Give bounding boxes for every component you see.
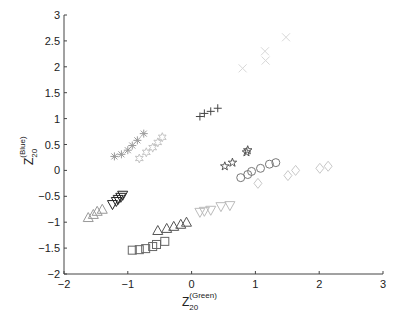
y-tick-label: 2.5 (45, 35, 60, 47)
triangle-up-marker-icon (83, 213, 93, 222)
axes: −2−10123−2−1.5−1−0.500.511.522.53 (38, 9, 386, 290)
scatter-chart: −2−10123−2−1.5−1−0.500.511.522.53 Z20(Gr… (0, 0, 400, 329)
triangle-down-marker-icon (225, 202, 235, 211)
y-axis-label: Z20(Blue) (18, 136, 39, 165)
plus-marker-icon (214, 104, 222, 112)
y-tick-label: −2 (47, 268, 60, 280)
x-tick-label: 3 (380, 278, 386, 290)
y-tick-label: −1.5 (38, 242, 60, 254)
triangle-up-marker-icon (181, 217, 191, 226)
y-tick-label: −1 (47, 216, 60, 228)
asterisk-marker-icon (140, 130, 148, 138)
asterisk-marker-icon (133, 136, 141, 144)
y-tick-label: 3 (54, 9, 60, 21)
triangle-down-marker-icon (195, 208, 205, 217)
diamond-marker-icon (316, 163, 324, 173)
x-marker-icon (262, 57, 270, 65)
x-tick-label: 0 (189, 278, 195, 290)
x-tick-label: 1 (252, 278, 258, 290)
x-tick-label: 2 (316, 278, 322, 290)
diamond-marker-icon (284, 171, 292, 181)
star-marker-icon (221, 162, 230, 170)
data-points (83, 33, 332, 254)
hexagram-marker-icon (135, 154, 143, 163)
triangle-up-marker-icon (153, 225, 163, 234)
x-marker-icon (239, 64, 247, 72)
y-tick-label: 2 (54, 61, 60, 73)
x-marker-icon (261, 47, 269, 55)
diamond-marker-icon (254, 178, 262, 188)
plus-marker-icon (207, 107, 215, 115)
x-marker-icon (282, 33, 290, 41)
diamond-marker-icon (324, 161, 332, 171)
asterisk-marker-icon (110, 152, 118, 160)
x-axis-label: Z20(Green) (182, 291, 217, 312)
square-marker-icon (161, 237, 169, 245)
diamond-marker-icon (292, 165, 300, 175)
triangle-down-marker-icon (216, 203, 226, 212)
y-tick-label: 1.5 (45, 87, 60, 99)
y-tick-label: 0.5 (45, 139, 60, 151)
y-tick-label: −0.5 (38, 190, 60, 202)
y-tick-label: 0 (54, 164, 60, 176)
y-tick-label: 1 (54, 113, 60, 125)
x-tick-label: −1 (122, 278, 135, 290)
asterisk-marker-icon (117, 150, 125, 158)
circle-marker-icon (257, 164, 265, 172)
